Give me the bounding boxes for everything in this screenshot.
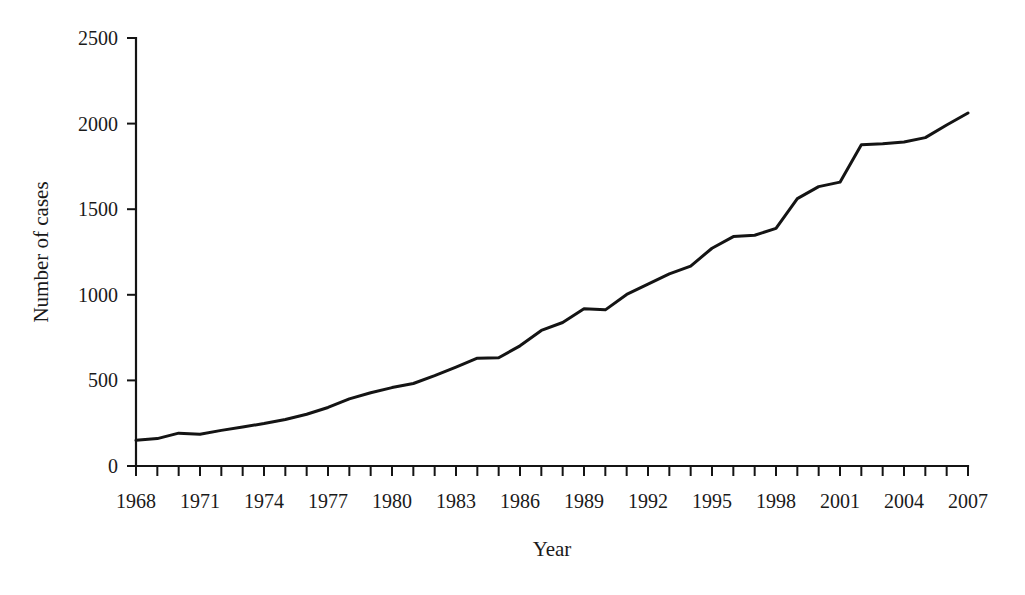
x-tick-label-2001: 2001 [820, 490, 860, 512]
line-chart: 05001000150020002500 1968197119741977198… [0, 0, 1025, 595]
x-tick-label-1968: 1968 [116, 490, 156, 512]
x-tick-label-1977: 1977 [308, 490, 348, 512]
x-tick-label-2004: 2004 [884, 490, 924, 512]
x-tick-label-2007: 2007 [948, 490, 988, 512]
x-tick-label-1980: 1980 [372, 490, 412, 512]
x-axis-title: Year [533, 537, 572, 561]
x-tick-label-1998: 1998 [756, 490, 796, 512]
x-tick-label-1974: 1974 [244, 490, 284, 512]
x-tick-label-1983: 1983 [436, 490, 476, 512]
y-axis-title: Number of cases [29, 181, 53, 322]
y-tick-label-2000: 2000 [78, 113, 118, 135]
y-tick-label-500: 500 [88, 369, 118, 391]
x-tick-label-1971: 1971 [180, 490, 220, 512]
x-tick-label-1995: 1995 [692, 490, 732, 512]
chart-canvas: 05001000150020002500 1968197119741977198… [0, 0, 1025, 595]
y-tick-label-2500: 2500 [78, 27, 118, 49]
x-tick-label-1989: 1989 [564, 490, 604, 512]
x-tick-label-1986: 1986 [500, 490, 540, 512]
y-tick-label-1500: 1500 [78, 198, 118, 220]
y-tick-label-1000: 1000 [78, 284, 118, 306]
x-tick-label-1992: 1992 [628, 490, 668, 512]
y-tick-label-0: 0 [108, 455, 118, 477]
